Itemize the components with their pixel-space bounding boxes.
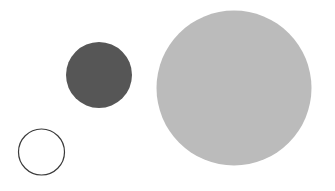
shape-canvas-svg: [0, 0, 335, 191]
large-light-circle: [157, 11, 312, 166]
shape-canvas: [0, 0, 335, 191]
medium-dark-circle: [66, 42, 132, 108]
small-outlined-circle: [19, 129, 65, 175]
